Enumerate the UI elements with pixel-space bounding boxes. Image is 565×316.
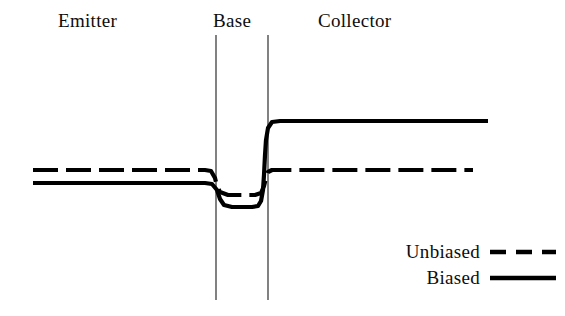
legend-item-unbiased: Unbiased [352,239,557,265]
legend-item-biased: Biased [352,265,557,291]
legend-label-biased: Biased [426,267,480,289]
legend: Unbiased Biased [352,239,557,291]
legend-swatch-unbiased [489,245,557,259]
region-label-base: Base [213,10,251,32]
band-diagram-figure: Emitter Base Collector Unbiased Biased [0,0,565,316]
legend-swatch-biased [489,271,557,285]
region-label-emitter: Emitter [58,10,117,32]
biased-band-curve [33,121,488,207]
legend-label-unbiased: Unbiased [406,241,480,263]
region-label-collector: Collector [318,10,391,32]
